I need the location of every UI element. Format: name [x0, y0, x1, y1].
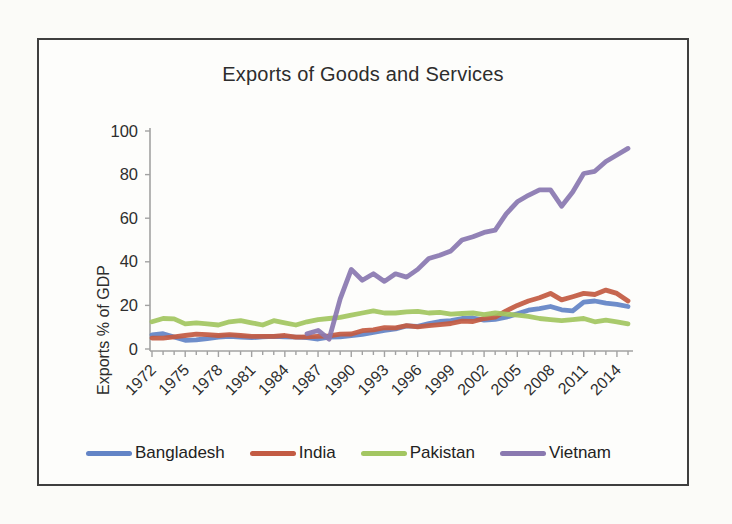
x-tick-label: 1972	[122, 361, 159, 398]
legend-label-bangladesh: Bangladesh	[135, 443, 225, 463]
x-tick-label: 1999	[421, 361, 458, 398]
y-tick-label: 0	[129, 340, 138, 358]
x-tick-label: 1987	[288, 361, 325, 398]
legend-label-pakistan: Pakistan	[410, 443, 475, 463]
x-tick-label: 2011	[555, 361, 591, 397]
y-tick-label: 20	[120, 296, 138, 314]
y-tick-label: 80	[120, 165, 138, 183]
x-tick-label: 1993	[354, 361, 391, 398]
x-tick-label: 1975	[155, 361, 192, 398]
legend-line-swatch-bangladesh	[86, 451, 132, 456]
legend-label-india: India	[299, 443, 336, 463]
legend-line-swatch-india	[250, 451, 296, 456]
x-tick-label: 2005	[487, 361, 524, 398]
y-tick-label: 100	[110, 122, 138, 140]
x-tick-label: 1996	[388, 361, 425, 398]
legend-item-vietnam: Vietnam	[500, 443, 611, 463]
legend-item-india: India	[250, 443, 336, 463]
x-tick-label: 1978	[188, 361, 225, 398]
x-tick-label: 2002	[454, 361, 491, 398]
legend-item-bangladesh: Bangladesh	[86, 443, 225, 463]
x-tick-label: 1984	[255, 361, 292, 398]
legend-line-swatch-pakistan	[361, 451, 407, 456]
x-tick-label: 1981	[222, 361, 259, 398]
legend-item-pakistan: Pakistan	[361, 443, 475, 463]
x-tick-label: 2008	[520, 361, 557, 398]
chart-legend: Bangladesh India Pakistan Vietnam	[86, 440, 646, 466]
legend-line-swatch-vietnam	[500, 451, 546, 456]
y-tick-label: 60	[120, 209, 138, 227]
series-line-pakistan	[152, 311, 628, 325]
series-line-vietnam	[307, 148, 628, 339]
legend-label-vietnam: Vietnam	[549, 443, 611, 463]
x-tick-label: 1990	[321, 361, 358, 398]
x-tick-label: 2014	[587, 361, 624, 398]
y-tick-label: 40	[120, 252, 138, 270]
